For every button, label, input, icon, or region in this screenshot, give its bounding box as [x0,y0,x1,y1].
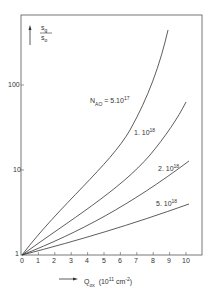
x-tick-7: 7 [134,257,138,264]
x-tick-3: 3 [69,257,73,264]
x-axis-label: Qox (1011 cm-2) [84,275,132,289]
x-tick-8: 8 [151,257,155,264]
plot-frame [21,15,202,255]
y-tick-1: 1 [15,250,19,257]
x-tick-1: 1 [36,257,40,264]
x-ticks [38,252,186,255]
series-label-5e17: NAO = 5.1017 [90,94,129,108]
series-5e18-line [22,204,189,255]
series-label-2e18: 2. 1018 [158,162,179,173]
y-axis-label-numerator: sg [41,24,47,34]
y-axis-label-denominator: so [41,34,47,44]
x-tick-10: 10 [182,257,190,264]
x-tick-9: 9 [167,257,171,264]
x-tick-5: 5 [102,257,106,264]
y-arrow-icon [29,25,32,30]
x-tick-6: 6 [118,257,122,264]
x-tick-4: 4 [85,257,89,264]
y-tick-10: 10 [13,166,21,173]
x-tick-2: 2 [52,257,56,264]
series-label-5e18: 5. 1018 [156,197,177,208]
x-tick-0: 0 [20,257,24,264]
y-tick-100: 100 [8,81,20,88]
chart-canvas [0,0,213,291]
x-arrow-icon [73,278,78,281]
series-label-1e18: 1. 1018 [134,126,155,137]
